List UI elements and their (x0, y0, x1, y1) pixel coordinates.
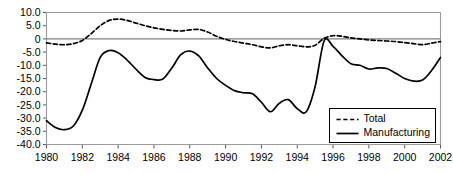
x-axis-labels: 1980198219841986198819901992199419961998… (35, 151, 453, 163)
x-axis-tick-label: 1994 (286, 151, 310, 163)
x-axis-tick-label: 1992 (250, 151, 274, 163)
y-axis-tick-label: -25.0 (17, 99, 41, 111)
chart-legend: TotalManufacturing (330, 109, 436, 143)
y-axis-tick-label: -15.0 (17, 72, 41, 84)
x-axis-tick-label: 1980 (35, 151, 59, 163)
legend-label-manufacturing: Manufacturing (364, 126, 431, 138)
x-axis-tick-label: 2002 (429, 151, 453, 163)
y-axis-tick-label: -40.0 (17, 138, 41, 150)
x-axis-tick-label: 1990 (214, 151, 238, 163)
legend-label-total: Total (364, 112, 386, 124)
y-axis-labels: 10.05.00-5.0-10.0-15.0-20.0-25.0-30.0-35… (17, 6, 41, 150)
x-axis-tick-label: 1998 (357, 151, 381, 163)
series-line-total (47, 19, 441, 48)
y-axis-tick-label: -20.0 (17, 85, 41, 97)
y-axis-tick-label: -35.0 (17, 125, 41, 137)
y-axis-tick-label: -10.0 (17, 59, 41, 71)
y-axis-tick-label: -30.0 (17, 112, 41, 124)
line-chart: 10.05.00-5.0-10.0-15.0-20.0-25.0-30.0-35… (0, 0, 453, 174)
y-axis-tick-label: -5.0 (22, 46, 40, 58)
y-axis-tick-label: 10.0 (20, 6, 41, 18)
x-axis-tick-label: 1988 (178, 151, 202, 163)
x-axis-tick-label: 1986 (142, 151, 166, 163)
x-axis-tick-label: 1982 (71, 151, 95, 163)
y-axis-tick-label: 5.0 (26, 19, 41, 31)
x-axis-tick-label: 1984 (106, 151, 130, 163)
chart-container: 10.05.00-5.0-10.0-15.0-20.0-25.0-30.0-35… (0, 0, 453, 174)
x-axis-tick-marks (47, 145, 441, 149)
x-axis-tick-label: 2000 (393, 151, 417, 163)
x-axis-tick-label: 1996 (321, 151, 345, 163)
y-axis-tick-label: 0 (35, 33, 41, 45)
